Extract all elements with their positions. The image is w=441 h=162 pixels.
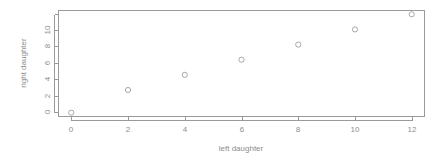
data-point	[352, 27, 357, 32]
x-tick-label: 2	[126, 125, 131, 134]
y-tick-label: 2	[43, 93, 52, 98]
data-point	[182, 72, 187, 77]
data-point	[125, 87, 130, 92]
plot-screenshot: 0 2 4 6 8 10 right daughter 0 2 4 6 8	[0, 0, 441, 162]
data-point	[409, 12, 414, 17]
scatter-plot: 0 2 4 6 8 10 right daughter 0 2 4 6 8	[0, 0, 441, 162]
y-axis-tick-labels: 0 2 4 6 8 10	[43, 25, 52, 114]
x-tick-label: 6	[240, 125, 245, 134]
data-points-layer	[69, 12, 415, 116]
data-point	[296, 42, 301, 47]
data-point	[69, 110, 74, 115]
x-tick-label: 8	[296, 125, 301, 134]
y-tick-label: 4	[43, 76, 52, 81]
x-tick-label: 12	[408, 125, 417, 134]
y-axis-ticks	[55, 15, 59, 113]
x-tick-label: 0	[69, 125, 74, 134]
y-axis-title: right daughter	[19, 38, 28, 88]
x-tick-label: 4	[183, 125, 188, 134]
plot-box	[59, 11, 425, 117]
y-tick-label: 8	[43, 43, 52, 48]
x-tick-label: 10	[351, 125, 360, 134]
x-axis-tick-labels: 0 2 4 6 8 10 12	[69, 125, 417, 134]
y-tick-label: 6	[43, 60, 52, 65]
data-point	[239, 57, 244, 62]
y-tick-label: 10	[43, 25, 52, 34]
x-axis-title: left daughter	[219, 144, 264, 153]
y-tick-label: 0	[43, 109, 52, 114]
x-axis-ticks	[72, 117, 413, 121]
